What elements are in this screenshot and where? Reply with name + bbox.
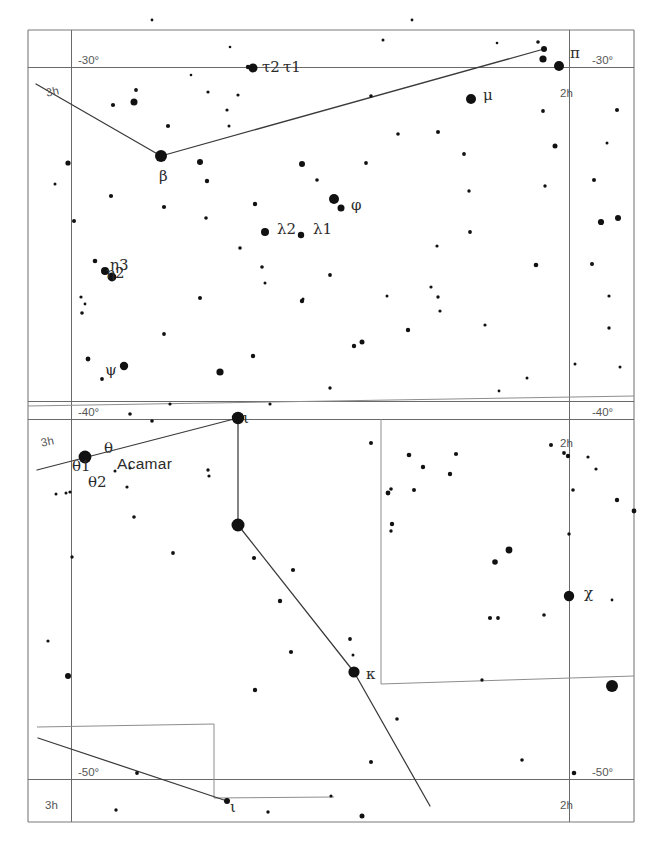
star-marker xyxy=(260,265,264,269)
star-marker xyxy=(162,205,166,209)
star-marker xyxy=(131,99,138,106)
star-marker xyxy=(541,109,545,113)
star-marker xyxy=(261,228,269,236)
star-marker xyxy=(360,814,365,819)
chart-frame xyxy=(28,30,634,822)
star-marker xyxy=(108,273,117,282)
star-marker xyxy=(68,490,71,493)
star-marker xyxy=(615,108,619,112)
star-marker xyxy=(65,160,70,165)
star-marker xyxy=(386,491,391,496)
star-marker xyxy=(101,267,109,275)
constellation-boundaries xyxy=(28,396,634,798)
star-marker xyxy=(338,205,345,212)
star-marker xyxy=(70,555,73,558)
star-marker xyxy=(454,452,458,456)
star-marker xyxy=(592,178,596,182)
star-marker xyxy=(224,798,230,804)
star-marker xyxy=(406,328,410,332)
star-marker xyxy=(266,810,269,813)
star-marker xyxy=(162,332,166,336)
star-marker xyxy=(65,673,71,679)
star-marker xyxy=(206,468,209,471)
star-marker xyxy=(268,402,271,405)
star-marker xyxy=(315,178,319,182)
star-marker xyxy=(594,467,597,470)
star-marker xyxy=(448,472,452,476)
star-marker xyxy=(382,39,385,42)
star-marker xyxy=(615,215,621,221)
star-marker xyxy=(562,451,566,455)
star-marker xyxy=(564,591,574,601)
star-marker xyxy=(395,717,399,721)
star-marker xyxy=(298,232,304,238)
constellation-stick-figure xyxy=(36,49,544,806)
star-marker xyxy=(198,296,202,300)
star-marker xyxy=(134,88,138,92)
star-marker xyxy=(369,94,373,98)
star-marker xyxy=(496,42,499,45)
star-marker xyxy=(389,487,393,491)
star-marker xyxy=(534,263,539,268)
star-marker xyxy=(360,340,365,345)
star-marker xyxy=(554,61,564,71)
star-marker xyxy=(536,40,540,44)
star-marker xyxy=(236,93,239,96)
star-marker xyxy=(132,515,136,519)
star-marker xyxy=(598,219,604,225)
star-marker xyxy=(607,326,610,329)
star-marker xyxy=(216,368,223,375)
star-marker xyxy=(407,453,412,458)
star-marker xyxy=(611,599,614,602)
star-marker xyxy=(291,568,295,572)
star-marker xyxy=(364,161,368,165)
star-marker xyxy=(412,488,416,492)
star-marker xyxy=(232,519,245,532)
star-marker xyxy=(228,125,231,128)
star-marker xyxy=(46,639,49,642)
coordinate-grid xyxy=(28,30,634,822)
star-marker xyxy=(539,55,546,62)
star-marker xyxy=(204,216,208,220)
star-marker xyxy=(84,303,87,306)
star-marker xyxy=(278,599,282,603)
star-marker xyxy=(168,402,171,405)
star-marker xyxy=(574,363,577,366)
star-marker xyxy=(619,366,622,369)
star-marker xyxy=(590,262,594,266)
star-marker xyxy=(54,183,57,186)
star-marker xyxy=(80,311,84,315)
star-marker xyxy=(171,551,175,555)
star-marker xyxy=(125,485,128,488)
eridanus-chain-middle xyxy=(37,418,430,806)
star-marker xyxy=(207,474,210,477)
star-marker xyxy=(386,295,389,298)
star-marker xyxy=(553,144,558,149)
star-marker xyxy=(128,412,132,416)
star-marker xyxy=(225,108,228,111)
star-marker xyxy=(632,509,637,514)
star-marker xyxy=(496,616,500,620)
star-marker xyxy=(498,390,501,393)
star-marker xyxy=(483,323,486,326)
star-marker xyxy=(369,441,373,445)
star-marker xyxy=(264,282,267,285)
star-marker xyxy=(120,362,128,370)
star-marker xyxy=(615,498,619,502)
star-marker xyxy=(436,130,440,134)
star-marker xyxy=(348,637,352,641)
star-marker xyxy=(506,547,513,554)
star-marker xyxy=(526,377,529,380)
star-marker xyxy=(190,74,193,77)
star-marker xyxy=(389,529,392,532)
star-marker xyxy=(114,470,117,473)
star-marker xyxy=(421,465,425,469)
star-marker xyxy=(566,454,570,458)
star-marker xyxy=(329,194,339,204)
star-marker xyxy=(86,357,91,362)
star-marker xyxy=(352,654,355,657)
star-marker xyxy=(252,556,256,560)
star-marker xyxy=(567,532,570,535)
star-chart: -30°-30°-40°-40°-50°-50°3h2h3h2h3h2h τ2τ… xyxy=(0,0,656,852)
star-marker xyxy=(468,230,472,234)
